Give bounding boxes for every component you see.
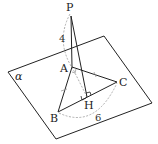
segment-PA — [71, 16, 72, 67]
point-label-C: C — [119, 76, 127, 89]
point-label-P: P — [66, 1, 74, 14]
point-label-B: B — [50, 112, 58, 125]
point-label-A: A — [59, 62, 69, 75]
point-label-H: H — [84, 99, 94, 112]
segment-PH — [71, 16, 87, 97]
measure-label-PA: 4 — [59, 33, 65, 44]
geometry-diagram: α P A C H B 4 6 — [0, 0, 158, 144]
tick-mark-AB — [61, 89, 67, 91]
plane-label: α — [15, 70, 23, 83]
measure-label-BC: 6 — [95, 112, 101, 123]
plane-alpha — [8, 36, 152, 139]
